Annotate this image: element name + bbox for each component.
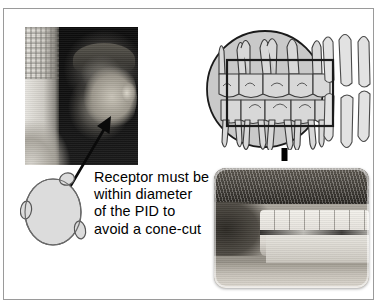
frame-rule-left [3,8,4,300]
figure-root: Receptor must be within diameter of the … [0,0,379,305]
receptor-ellipse [20,168,90,250]
clinical-teeth-photo [214,168,369,288]
caption-line-1: Receptor must be [94,169,224,186]
photo-frame-highlight [214,168,369,288]
frame-rule-bottom [4,299,374,300]
caption-line-2: within diameter [94,186,224,203]
frame-rule-top [4,8,374,9]
caption-line-3: of the PID to [94,203,224,220]
caption-line-4: avoid a cone-cut [94,221,224,238]
teeth-line-diagram [205,28,371,150]
caption-block: Receptor must be within diameter of the … [94,169,224,238]
frame-rule-right [373,8,374,300]
